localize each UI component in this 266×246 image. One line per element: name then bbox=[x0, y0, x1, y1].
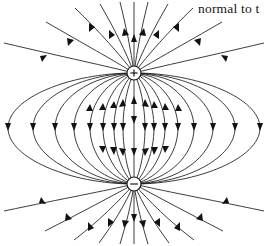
arrow-loop-right-outer bbox=[257, 123, 263, 131]
arrow-loop-left-8 bbox=[120, 123, 126, 131]
arrow-fan-top-l2 bbox=[109, 30, 115, 39]
arrow-left6-upper bbox=[99, 103, 106, 110]
arrow-loop-right-7 bbox=[151, 123, 157, 131]
arrow-fan-top-r5 bbox=[221, 55, 228, 62]
arrow-right6-lower bbox=[162, 146, 169, 153]
fan-top-r3 bbox=[134, 8, 193, 73]
caption-normal-to-t: normal to t bbox=[198, 1, 259, 16]
loop-left-7 bbox=[114, 73, 134, 184]
arrow-fan-bot-l3 bbox=[88, 222, 94, 231]
arrow-fan-bot-r1 bbox=[139, 220, 146, 228]
arrow-left7-upper bbox=[110, 101, 117, 108]
field-line-canvas bbox=[0, 0, 266, 246]
arrow-loop-right-4 bbox=[191, 123, 197, 131]
arrow-fan-bot-r5 bbox=[222, 197, 229, 204]
arrow-loop-left-2 bbox=[30, 123, 36, 131]
fan-top-l1 bbox=[120, 2, 134, 73]
arrow-loop-right-2 bbox=[232, 123, 238, 131]
arrow-loop-right-6 bbox=[162, 123, 168, 131]
fan-bot-r2 bbox=[134, 184, 169, 243]
fan-bot-r3 bbox=[134, 184, 194, 240]
arrow-fan-bot-l5 bbox=[39, 197, 46, 204]
arrow-loop-right-3 bbox=[210, 123, 216, 131]
arrow-axis-lower bbox=[131, 148, 137, 156]
arrow-fan-top-r4 bbox=[194, 38, 201, 46]
dipole-field-diagram: normal to t bbox=[0, 0, 266, 246]
arrow-fan-top-r1 bbox=[139, 28, 146, 36]
fan-top-r1 bbox=[134, 2, 148, 73]
arrow-left7-lower bbox=[110, 147, 117, 155]
fan-top-r5 bbox=[134, 43, 264, 73]
loop-right-8 bbox=[134, 73, 145, 184]
arrow-axis-upper bbox=[131, 96, 137, 104]
positive-pole bbox=[127, 66, 141, 80]
arrow-loop-left-4 bbox=[71, 123, 77, 131]
arrow-loop-right-5 bbox=[175, 123, 181, 131]
arrow-left6-lower bbox=[99, 146, 106, 153]
arrow-right7-upper bbox=[151, 101, 158, 108]
fan-bot-l5 bbox=[4, 184, 134, 211]
arrow-loop-left-5 bbox=[87, 123, 93, 131]
arrow-loop-left-3 bbox=[52, 123, 58, 131]
arrow-fan-bot-l4 bbox=[65, 213, 72, 221]
arrow-loop-axis bbox=[131, 116, 137, 124]
fan-bot-l2 bbox=[99, 184, 134, 243]
arrow-left5-upper bbox=[86, 104, 93, 111]
arrow-fan-bot-0 bbox=[131, 214, 137, 222]
loop-left-8 bbox=[123, 73, 134, 184]
negative-pole bbox=[127, 177, 141, 191]
loop-left-4 bbox=[74, 73, 134, 184]
fan-bot-l3 bbox=[74, 184, 134, 240]
arrow-right6-upper bbox=[162, 103, 169, 110]
arrow-loop-left-outer bbox=[5, 123, 11, 131]
loop-right-7 bbox=[134, 73, 154, 184]
fan-bot-r5 bbox=[134, 184, 264, 211]
arrow-fan-bot-r4 bbox=[196, 213, 203, 221]
arrow-loop-left-7 bbox=[111, 123, 117, 131]
loop-right-6 bbox=[134, 73, 165, 184]
arrow-fan-bot-l1 bbox=[122, 220, 129, 228]
arrow-fan-top-l1 bbox=[122, 28, 129, 36]
arrow-fan-top-l5 bbox=[40, 55, 47, 62]
arrow-fan-top-l4 bbox=[67, 38, 74, 46]
arrow-fan-top-0 bbox=[131, 34, 137, 42]
loop-right-4 bbox=[134, 73, 194, 184]
arrow-loop-right-8 bbox=[142, 123, 148, 131]
closed-loop-group bbox=[8, 73, 260, 184]
fan-top-l5 bbox=[4, 43, 134, 73]
arrow-loop-left-6 bbox=[100, 123, 106, 131]
fan-top-l3 bbox=[75, 8, 134, 73]
arrow-fan-bot-r3 bbox=[174, 222, 180, 231]
arrow-right7-lower bbox=[151, 147, 158, 155]
loop-left-6 bbox=[103, 73, 134, 184]
arrow-right5-upper bbox=[175, 104, 182, 111]
arrow-fan-top-r2 bbox=[153, 30, 159, 39]
